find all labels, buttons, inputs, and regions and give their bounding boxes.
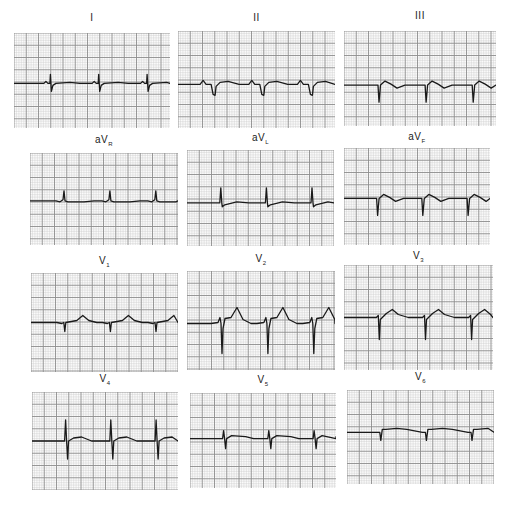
ecg-strip bbox=[347, 390, 494, 484]
lead-label-subscript: F bbox=[422, 138, 426, 144]
lead-ii: II bbox=[178, 12, 335, 128]
ecg-grid-paper bbox=[347, 390, 494, 484]
lead-i: I bbox=[14, 12, 170, 128]
ecg-strip bbox=[31, 273, 178, 372]
lead-v1: V1 bbox=[31, 255, 178, 372]
ecg-strip bbox=[187, 271, 335, 370]
lead-label-subscript: 1 bbox=[106, 262, 110, 268]
lead-label-subscript: L bbox=[265, 139, 269, 145]
lead-label-main: aV bbox=[252, 132, 265, 143]
lead-iii: III bbox=[344, 10, 496, 126]
ecg-strip bbox=[30, 153, 178, 245]
lead-label: V5 bbox=[190, 374, 336, 387]
lead-v5: V5 bbox=[190, 374, 336, 488]
ecg-strip bbox=[344, 265, 493, 370]
lead-label: aVL bbox=[187, 132, 334, 145]
lead-label-main: V bbox=[99, 373, 106, 384]
lead-label-main: V bbox=[255, 253, 262, 264]
lead-label-subscript: R bbox=[108, 141, 113, 147]
ecg-strip bbox=[32, 392, 178, 490]
lead-v4: V4 bbox=[32, 373, 178, 490]
lead-label-main: aV bbox=[95, 134, 108, 145]
ecg-strip bbox=[344, 148, 490, 245]
ecg-grid-paper bbox=[344, 265, 493, 370]
ecg-strip bbox=[187, 150, 334, 246]
ecg-strip bbox=[190, 393, 336, 488]
lead-label-subscript: 6 bbox=[422, 378, 426, 384]
lead-label-subscript: 2 bbox=[263, 260, 267, 266]
lead-label: III bbox=[344, 10, 496, 21]
lead-label-subscript: 3 bbox=[420, 257, 424, 263]
ecg-strip bbox=[178, 31, 335, 128]
ecg-grid-paper bbox=[178, 31, 335, 128]
lead-label: aVF bbox=[344, 131, 490, 144]
lead-label: V2 bbox=[187, 253, 335, 266]
lead-label-subscript: 5 bbox=[265, 381, 269, 387]
ecg-strip bbox=[344, 31, 496, 126]
ecg-grid-paper bbox=[190, 393, 336, 488]
ecg-grid-paper bbox=[344, 31, 496, 126]
ecg-grid-paper bbox=[14, 33, 170, 128]
lead-v3: V3 bbox=[344, 250, 493, 370]
lead-avr: aVR bbox=[30, 134, 178, 245]
lead-label-main: V bbox=[257, 374, 264, 385]
lead-v6: V6 bbox=[347, 371, 494, 484]
lead-label: aVR bbox=[30, 134, 178, 147]
lead-label-main: aV bbox=[408, 131, 421, 142]
lead-label-main: II bbox=[253, 12, 260, 23]
lead-label-main: III bbox=[415, 10, 425, 21]
lead-avl: aVL bbox=[187, 132, 334, 246]
lead-avf: aVF bbox=[344, 131, 490, 245]
lead-label-subscript: 4 bbox=[107, 380, 111, 386]
lead-label: V4 bbox=[32, 373, 178, 386]
lead-label: V6 bbox=[347, 371, 494, 384]
ecg-grid-paper bbox=[30, 153, 178, 245]
ecg-grid-paper bbox=[344, 148, 490, 245]
ecg-grid-paper bbox=[187, 271, 335, 370]
lead-label-main: I bbox=[90, 12, 93, 23]
lead-label: I bbox=[14, 12, 170, 23]
ecg-grid-paper bbox=[187, 150, 334, 246]
lead-label: V3 bbox=[344, 250, 493, 263]
ecg-grid-paper bbox=[31, 273, 178, 372]
ecg-strip bbox=[14, 33, 170, 128]
lead-v2: V2 bbox=[187, 253, 335, 370]
ecg-grid-paper bbox=[32, 392, 178, 490]
lead-label: II bbox=[178, 12, 335, 23]
lead-label: V1 bbox=[31, 255, 178, 268]
